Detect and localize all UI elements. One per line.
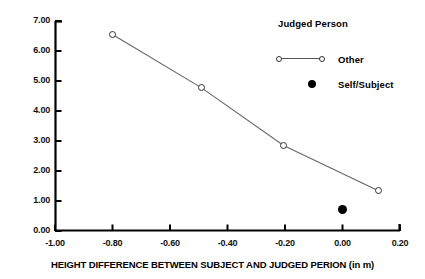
x-tick-label: -0.40 xyxy=(198,238,258,248)
x-tick-label: -0.80 xyxy=(83,238,143,248)
y-tick-label: 6.00 xyxy=(8,45,50,55)
y-tick-label: 3.00 xyxy=(8,135,50,145)
legend-swatch-filled-circle xyxy=(276,78,328,90)
y-tick-label: 4.00 xyxy=(8,105,50,115)
x-tick-label: 0.00 xyxy=(313,238,373,248)
data-point-other[interactable] xyxy=(280,142,287,149)
data-point-other[interactable] xyxy=(109,31,116,38)
legend: Judged Person xyxy=(278,18,418,29)
legend-label-self-subject: Self/Subject xyxy=(338,79,394,90)
y-tick-label: 7.00 xyxy=(8,15,50,25)
y-tick-label: 0.00 xyxy=(8,225,50,235)
x-tick-label: -1.00 xyxy=(25,238,85,248)
x-axis-title: HEIGHT DIFFERENCE BETWEEN SUBJECT AND JU… xyxy=(0,259,425,270)
legend-item-self-subject[interactable]: Self/Subject xyxy=(276,78,394,90)
y-tick-label: 5.00 xyxy=(8,75,50,85)
legend-swatch-open-circle-line xyxy=(276,53,328,65)
y-tick-label: 2.00 xyxy=(8,165,50,175)
legend-title: Judged Person xyxy=(278,18,418,29)
y-tick-label: 1.00 xyxy=(8,195,50,205)
data-point-self-subject[interactable] xyxy=(338,205,347,214)
legend-item-other[interactable]: Other xyxy=(276,53,364,65)
legend-label-other: Other xyxy=(338,54,364,65)
x-tick-label: 0.20 xyxy=(370,238,425,248)
x-tick-label: -0.60 xyxy=(140,238,200,248)
x-tick-label: -0.20 xyxy=(255,238,315,248)
chart-figure: 0.001.002.003.004.005.006.007.00-1.00-0.… xyxy=(0,0,425,279)
